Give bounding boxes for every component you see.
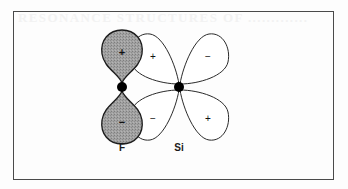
orbital-diagram-canvas: + − + − − + xyxy=(0,0,348,189)
phase-sign-f-lower: − xyxy=(119,116,125,128)
phase-sign-si-upper-right: − xyxy=(205,51,211,62)
atom-label-si: Si xyxy=(174,142,183,153)
phase-sign-f-upper: + xyxy=(119,46,125,58)
orbital-overlap-figure: RESONANCE STRUCTURES OF ............. xyxy=(0,0,348,189)
phase-sign-si-upper-left: + xyxy=(150,51,156,62)
phase-sign-si-lower-left: − xyxy=(150,113,156,124)
atom-label-f: F xyxy=(119,142,125,153)
nucleus-dot-f xyxy=(117,82,127,92)
nucleus-dot-si xyxy=(174,82,184,92)
phase-sign-si-lower-right: + xyxy=(205,113,211,124)
